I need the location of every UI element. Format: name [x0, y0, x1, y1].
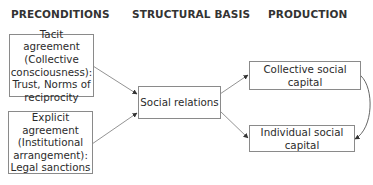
- node-tacit-agreement: Tacit agreement (Collective consciousnes…: [9, 34, 94, 97]
- edge-tacit-to-social-relations: [93, 66, 137, 94]
- node-collective-social-capital: Collective social capital: [249, 61, 361, 90]
- node-social-relations: Social relations: [138, 86, 221, 119]
- node-collective-social-capital-label: Collective social capital: [250, 63, 360, 88]
- node-individual-social-capital: Individual social capital: [249, 125, 355, 152]
- node-tacit-agreement-label: Tacit agreement (Collective consciousnes…: [10, 28, 93, 104]
- edge-social-relations-to-individual: [220, 111, 248, 138]
- edge-explicit-to-social-relations: [92, 113, 137, 144]
- node-explicit-agreement-label: Explicit agreement (Institutional arrang…: [9, 111, 92, 174]
- node-social-relations-label: Social relations: [140, 96, 218, 109]
- node-explicit-agreement: Explicit agreement (Institutional arrang…: [8, 111, 93, 174]
- edge-social-relations-to-collective: [220, 75, 248, 94]
- node-individual-social-capital-label: Individual social capital: [250, 126, 354, 151]
